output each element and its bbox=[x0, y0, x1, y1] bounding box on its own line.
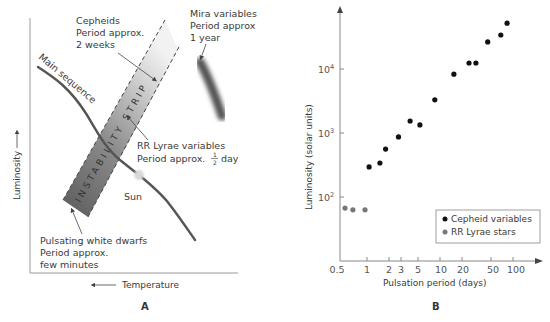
panel-b-period-luminosity-chart: 102 103 104 0.5 1 2 3 5 10 20 50 100 bbox=[304, 6, 543, 312]
cepheid-point bbox=[466, 60, 471, 65]
svg-text:Period approx: Period approx bbox=[190, 20, 256, 31]
svg-text:few minutes: few minutes bbox=[40, 259, 98, 270]
svg-text:5: 5 bbox=[415, 264, 421, 275]
panel-a-x-label: Temperature bbox=[93, 280, 179, 290]
svg-text:0.5: 0.5 bbox=[329, 264, 344, 275]
cepheid-point bbox=[377, 160, 382, 165]
sun-marker bbox=[134, 170, 144, 180]
svg-text:1: 1 bbox=[364, 264, 370, 275]
cepheid-point bbox=[451, 72, 456, 77]
svg-text:day: day bbox=[221, 153, 239, 164]
cepheid-point bbox=[505, 21, 510, 26]
svg-text:1 year: 1 year bbox=[190, 32, 220, 43]
cepheid-point bbox=[417, 122, 422, 127]
cepheid-point bbox=[498, 32, 503, 37]
panel-a-letter: A bbox=[141, 301, 149, 312]
panel-b-legend: Cepheid variables RR Lyrae stars bbox=[436, 210, 540, 243]
rr-lyrae-annotation: RR Lyrae variables Period approx. 1 2 da… bbox=[128, 117, 239, 166]
svg-text:Period approx.: Period approx. bbox=[137, 153, 205, 164]
svg-text:2: 2 bbox=[213, 159, 217, 166]
svg-text:3: 3 bbox=[398, 264, 404, 275]
svg-text:Cepheid variables: Cepheid variables bbox=[451, 214, 532, 224]
svg-text:RR Lyrae variables: RR Lyrae variables bbox=[137, 140, 225, 151]
mira-variables-region bbox=[200, 62, 222, 116]
svg-text:50: 50 bbox=[487, 264, 499, 275]
rr-lyrae-point bbox=[342, 206, 347, 211]
cepheid-point bbox=[485, 39, 490, 44]
panel-b-x-ticks: 0.5 1 2 3 5 10 20 50 100 bbox=[329, 257, 525, 275]
sun-label: Sun bbox=[124, 191, 142, 202]
cepheid-point bbox=[396, 134, 401, 139]
svg-text:Luminosity: Luminosity bbox=[12, 150, 22, 200]
svg-text:20: 20 bbox=[457, 264, 469, 275]
svg-text:2: 2 bbox=[386, 264, 392, 275]
rr-lyrae-point bbox=[362, 207, 367, 212]
cepheid-point bbox=[473, 60, 478, 65]
rr-lyrae-point bbox=[350, 207, 355, 212]
cepheid-point bbox=[432, 97, 437, 102]
svg-text:Mira variables: Mira variables bbox=[190, 8, 257, 19]
svg-text:103: 103 bbox=[318, 127, 334, 139]
svg-text:1: 1 bbox=[213, 151, 217, 158]
cepheid-point bbox=[408, 118, 413, 123]
panel-a-y-label: Luminosity bbox=[12, 132, 22, 200]
cepheid-point bbox=[383, 147, 388, 152]
cepheid-point bbox=[367, 164, 372, 169]
panel-b-y-label: Luminosity (solar units) bbox=[304, 104, 314, 210]
panel-a-hr-diagram: INSTABILITY STRIP Main sequence Sun Ceph… bbox=[12, 8, 257, 312]
svg-text:2 weeks: 2 weeks bbox=[76, 39, 115, 50]
panel-b-x-label: Pulsation period (days) bbox=[383, 278, 487, 288]
panel-b-letter: B bbox=[432, 301, 440, 312]
svg-text:Period approx.: Period approx. bbox=[40, 247, 108, 258]
main-sequence-label: Main sequence bbox=[37, 51, 99, 105]
svg-text:Period approx.: Period approx. bbox=[76, 27, 144, 38]
svg-text:Pulsating white dwarfs: Pulsating white dwarfs bbox=[40, 235, 147, 246]
svg-text:100: 100 bbox=[507, 264, 525, 275]
svg-text:RR Lyrae stars: RR Lyrae stars bbox=[451, 227, 516, 237]
svg-text:104: 104 bbox=[318, 63, 334, 75]
panel-b-data-points bbox=[342, 21, 509, 213]
white-dwarfs-annotation: Pulsating white dwarfs Period approx. fe… bbox=[40, 210, 147, 270]
svg-text:102: 102 bbox=[318, 191, 334, 203]
svg-text:Temperature: Temperature bbox=[121, 280, 179, 290]
svg-text:Cepheids: Cepheids bbox=[76, 15, 120, 26]
svg-text:10: 10 bbox=[435, 264, 447, 275]
mira-annotation: Mira variables Period approx 1 year bbox=[190, 8, 257, 58]
figure: INSTABILITY STRIP Main sequence Sun Ceph… bbox=[0, 0, 550, 322]
